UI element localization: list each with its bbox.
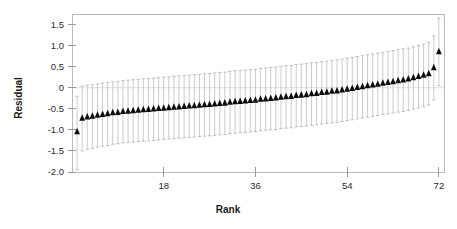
y-tick-label: 0.5 <box>51 61 64 72</box>
x-axis-ticks: 18365472 <box>158 167 444 191</box>
residual-rank-chart: -2.0-1.5-1.0-0.500.51.01.5 18365472 Rank… <box>0 0 457 229</box>
y-tick-label: -2.0 <box>48 166 64 177</box>
data-point-marker <box>100 110 106 117</box>
data-point-marker <box>196 101 202 108</box>
data-point-marker <box>273 94 279 101</box>
data-point-marker <box>278 93 284 100</box>
data-point-marker <box>115 108 121 115</box>
data-point-marker <box>426 70 432 77</box>
data-markers-group <box>74 48 442 135</box>
data-point-marker <box>95 111 101 118</box>
data-point-marker <box>181 102 187 109</box>
data-point-marker <box>161 104 167 111</box>
data-point-marker <box>375 80 381 87</box>
data-point-marker <box>84 113 90 120</box>
data-point-marker <box>329 87 335 94</box>
data-point-marker <box>202 101 208 108</box>
data-point-marker <box>436 48 442 55</box>
x-tick-label: 36 <box>250 180 261 191</box>
data-point-marker <box>120 108 126 115</box>
x-axis-label: Rank <box>216 204 241 215</box>
data-point-marker <box>156 105 162 112</box>
data-point-marker <box>314 89 320 96</box>
data-point-marker <box>293 92 299 99</box>
data-point-marker <box>186 102 192 109</box>
data-point-marker <box>385 78 391 85</box>
data-point-marker <box>232 98 238 105</box>
y-tick-label: 1.5 <box>51 19 64 30</box>
data-point-marker <box>171 103 177 110</box>
data-point-marker <box>390 78 396 85</box>
data-point-marker <box>395 77 401 84</box>
data-point-marker <box>146 105 152 112</box>
data-point-marker <box>263 95 269 102</box>
data-point-marker <box>319 89 325 96</box>
data-point-marker <box>309 90 315 97</box>
data-point-marker <box>227 98 233 105</box>
data-point-marker <box>217 100 223 107</box>
data-point-marker <box>140 106 146 113</box>
data-point-marker <box>237 97 243 104</box>
x-tick-label: 54 <box>342 180 353 191</box>
data-point-marker <box>242 97 248 104</box>
error-bars-group <box>75 18 440 170</box>
y-tick-label: -1.5 <box>48 145 64 156</box>
y-tick-label: -1.0 <box>48 124 64 135</box>
data-point-marker <box>354 84 360 91</box>
data-point-marker <box>339 86 345 93</box>
data-point-marker <box>344 85 350 92</box>
data-point-marker <box>370 81 376 88</box>
data-point-marker <box>360 83 366 90</box>
chart-page: -2.0-1.5-1.0-0.500.51.01.5 18365472 Rank… <box>0 0 457 229</box>
y-tick-label: 0 <box>59 82 64 93</box>
data-point-marker <box>110 109 116 116</box>
data-point-marker <box>380 79 386 86</box>
data-point-marker <box>416 73 422 80</box>
data-point-marker <box>411 74 417 81</box>
data-point-marker <box>431 64 437 71</box>
data-point-marker <box>258 95 264 102</box>
x-tick-label: 18 <box>158 180 169 191</box>
data-point-marker <box>365 82 371 89</box>
data-point-marker <box>298 91 304 98</box>
data-point-marker <box>304 91 310 98</box>
data-point-marker <box>125 107 131 114</box>
data-point-marker <box>191 102 197 109</box>
x-tick-label: 72 <box>434 180 445 191</box>
data-point-marker <box>212 100 218 107</box>
data-point-marker <box>166 104 172 111</box>
y-tick-label: 1.0 <box>51 40 64 51</box>
data-point-marker <box>79 114 85 121</box>
data-point-marker <box>74 128 80 135</box>
data-point-marker <box>405 75 411 82</box>
data-point-marker <box>151 105 157 112</box>
data-point-marker <box>268 94 274 101</box>
data-point-marker <box>135 106 141 113</box>
data-point-marker <box>207 100 213 107</box>
data-point-marker <box>283 93 289 100</box>
data-point-marker <box>400 76 406 83</box>
y-tick-label: -0.5 <box>48 103 64 114</box>
data-point-marker <box>222 99 228 106</box>
data-point-marker <box>421 71 427 78</box>
y-axis-label: Residual <box>13 77 24 119</box>
data-point-marker <box>247 97 253 104</box>
data-point-marker <box>130 107 136 114</box>
data-point-marker <box>105 110 111 117</box>
data-point-marker <box>253 96 259 103</box>
data-point-marker <box>324 88 330 95</box>
data-point-marker <box>288 92 294 99</box>
data-point-marker <box>176 103 182 110</box>
data-point-marker <box>89 112 95 119</box>
